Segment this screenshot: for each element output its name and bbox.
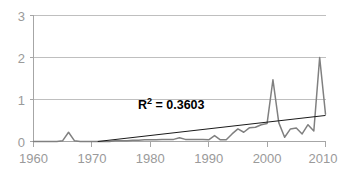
y-tick-label-2: 2: [18, 51, 25, 66]
x-axis-tick-labels: 1960 1970 1980 1990 2000 2010: [19, 151, 337, 166]
x-tick-label-1960: 1960: [19, 151, 48, 166]
x-tick-label-1980: 1980: [136, 151, 165, 166]
x-tick-label-1970: 1970: [77, 151, 106, 166]
y-tick-label-1: 1: [18, 93, 25, 108]
y-tick-label-0: 0: [18, 135, 25, 150]
x-tick-label-1990: 1990: [194, 151, 223, 166]
r-squared-annotation: R2 = 0.3603: [138, 96, 205, 112]
line-chart: 0 1 2 3 1960 1970 1980 1990 2000 2010 R2…: [0, 0, 339, 174]
chart-container: 0 1 2 3 1960 1970 1980 1990 2000 2010 R2…: [0, 0, 339, 174]
x-tick-label-2010: 2010: [309, 151, 338, 166]
x-tick-label-2000: 2000: [253, 151, 282, 166]
y-tick-label-3: 3: [18, 9, 25, 24]
gridlines: [34, 16, 326, 100]
y-axis-tick-labels: 0 1 2 3: [18, 9, 25, 150]
